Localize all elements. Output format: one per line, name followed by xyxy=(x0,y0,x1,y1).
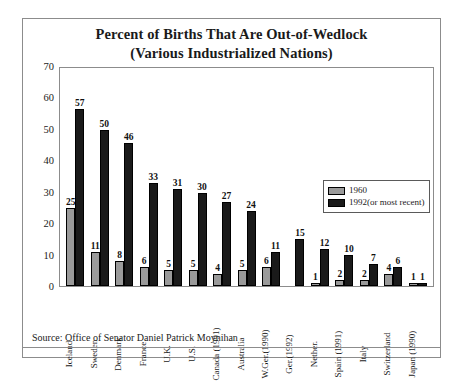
y-axis-tick: 30 xyxy=(24,188,54,198)
x-axis-label: France xyxy=(139,342,148,367)
bar-group: 633 xyxy=(136,68,160,286)
bar-group: 846 xyxy=(112,68,136,286)
bar-value-label: 30 xyxy=(197,182,207,192)
legend-item-1992: 1992(or most recent) xyxy=(328,197,424,208)
x-axis-label: Japan (1990) xyxy=(408,331,417,378)
chart-title-line-1: Percent of Births That Are Out-of-Wedloc… xyxy=(23,25,440,44)
bar: 4 xyxy=(384,274,393,286)
bar-value-label: 7 xyxy=(371,253,376,263)
bar-group: 530 xyxy=(185,68,209,286)
bar: 1 xyxy=(311,283,320,286)
bar-value-label: 4 xyxy=(386,263,391,273)
legend-label-1960: 1960 xyxy=(349,185,367,196)
bar-groups: 2557115084663353153042752461115112210274… xyxy=(60,68,433,286)
bar-value-label: 1 xyxy=(420,272,425,282)
chart-title: Percent of Births That Are Out-of-Wedloc… xyxy=(23,25,440,63)
y-axis: 010203040506070 xyxy=(23,67,58,287)
bar: 5 xyxy=(164,270,173,286)
bar-group: 27 xyxy=(357,68,381,286)
y-axis-tick: 0 xyxy=(24,282,54,292)
chart-legend: 1960 1992(or most recent) xyxy=(323,180,430,213)
x-axis-label-cell: Ger.(1992) xyxy=(282,292,306,354)
x-axis-label: Iceland xyxy=(65,341,74,367)
bar: 1 xyxy=(418,283,427,286)
y-axis-tick: 20 xyxy=(24,219,54,229)
bar: 8 xyxy=(115,261,124,286)
y-axis-tick: 60 xyxy=(24,93,54,103)
x-axis-label-cell: Sweden xyxy=(86,292,110,354)
bar-group: 531 xyxy=(161,68,185,286)
bar-group: 11 xyxy=(406,68,430,286)
y-axis-tick: 10 xyxy=(24,251,54,261)
x-axis-label-cell: Canada (1991) xyxy=(209,292,233,354)
bar-group: 427 xyxy=(210,68,234,286)
bar: 31 xyxy=(173,189,182,286)
bar: 6 xyxy=(262,267,271,286)
bar-value-label: 1 xyxy=(313,272,318,282)
x-axis-label-cell: Japan (1990) xyxy=(405,292,429,354)
bar: 5 xyxy=(238,270,247,286)
bar-value-label: 15 xyxy=(295,228,305,238)
chart-figure: Percent of Births That Are Out-of-Wedloc… xyxy=(22,18,441,358)
plot-frame: 2557115084663353153042752461115112210274… xyxy=(59,67,434,287)
bar-value-label: 5 xyxy=(191,259,196,269)
x-axis-label-cell: Spain (1991) xyxy=(331,292,355,354)
x-axis-label-cell: Denmark xyxy=(111,292,135,354)
x-axis-label: Switzerland xyxy=(383,333,392,376)
bar: 24 xyxy=(247,211,256,286)
bar-value-label: 1 xyxy=(411,272,416,282)
bar-value-label: 5 xyxy=(240,259,245,269)
bar: 5 xyxy=(189,270,198,286)
bar: 11 xyxy=(91,252,100,286)
bar-value-label: 6 xyxy=(395,256,400,266)
bar-value-label: 12 xyxy=(320,238,330,248)
bar-group: 2557 xyxy=(63,68,87,286)
bar-value-label: 25 xyxy=(66,197,76,207)
bar-value-label: 57 xyxy=(75,98,85,108)
bar: 50 xyxy=(100,130,109,286)
bar: 7 xyxy=(369,264,378,286)
bar: 2 xyxy=(335,280,344,286)
x-axis-label: Sweden xyxy=(90,340,99,369)
y-axis-tick: 70 xyxy=(24,62,54,72)
x-axis-label-cell: Italy xyxy=(356,292,380,354)
bar: 27 xyxy=(222,202,231,286)
bar-group: 611 xyxy=(259,68,283,286)
x-axis-label: Italy xyxy=(359,346,368,363)
legend-label-1992: 1992(or most recent) xyxy=(349,197,424,208)
x-axis-label-cell: Nether. xyxy=(307,292,331,354)
bar: 46 xyxy=(124,143,133,286)
bar-group: 210 xyxy=(332,68,356,286)
bar-value-label: 27 xyxy=(222,191,232,201)
bar-value-label: 11 xyxy=(91,241,100,251)
bar: 10 xyxy=(344,255,353,286)
x-axis-label: W.Ger.(1990) xyxy=(261,329,270,378)
bar-value-label: 50 xyxy=(99,119,109,129)
legend-swatch-1992 xyxy=(328,199,345,207)
x-axis-labels: IcelandSwedenDenmarkFranceU.K.U.S.Canada… xyxy=(59,292,432,354)
x-axis-label: Spain (1991) xyxy=(334,331,343,378)
bar-group: 1150 xyxy=(87,68,111,286)
x-axis-label-cell: France xyxy=(135,292,159,354)
x-axis-label: U.S. xyxy=(188,346,197,362)
y-axis-tick: 50 xyxy=(24,125,54,135)
bar-value-label: 11 xyxy=(271,241,280,251)
bar: 30 xyxy=(198,193,207,286)
x-axis-label-cell: U.S. xyxy=(184,292,208,354)
bar: 33 xyxy=(149,183,158,286)
x-axis-label: Ger.(1992) xyxy=(285,334,294,373)
x-axis-label-cell: Iceland xyxy=(62,292,86,354)
bar-value-label: 5 xyxy=(166,259,171,269)
y-axis-tick: 40 xyxy=(24,156,54,166)
bar: 1 xyxy=(409,283,418,286)
bar-value-label: 4 xyxy=(215,263,220,273)
bar-value-label: 33 xyxy=(148,172,158,182)
bar-value-label: 2 xyxy=(362,269,367,279)
bar: 2 xyxy=(360,280,369,286)
bar: 15 xyxy=(295,239,304,286)
source-note: Source: Office of Senator Daniel Patrick… xyxy=(32,332,238,343)
source-divider xyxy=(23,347,440,348)
x-axis-label-cell: Switzerland xyxy=(380,292,404,354)
bar-value-label: 8 xyxy=(117,250,122,260)
bar: 11 xyxy=(271,252,280,286)
